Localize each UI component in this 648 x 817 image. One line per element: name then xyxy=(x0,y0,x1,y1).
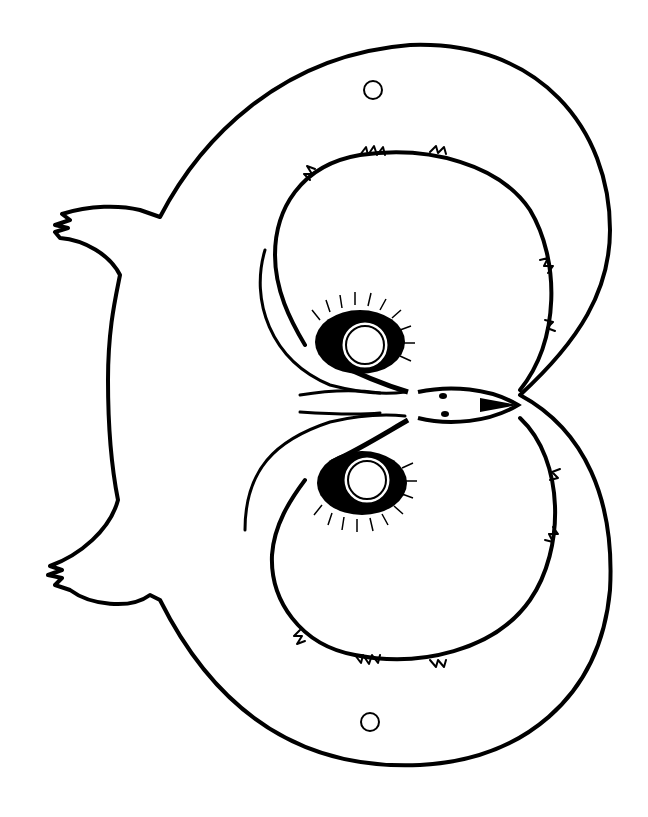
owl-mask-drawing xyxy=(0,0,648,817)
owl-mask-svg xyxy=(0,0,648,817)
